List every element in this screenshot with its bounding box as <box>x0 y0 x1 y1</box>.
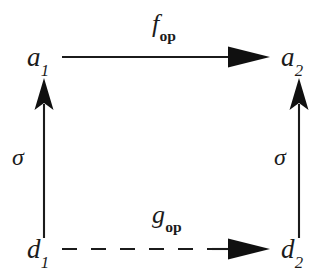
arrow-f-op-subscript: op <box>159 27 175 44</box>
arrow-f-op <box>62 47 270 68</box>
node-a1-subscript: 1 <box>41 61 49 80</box>
node-label-d2: d2 <box>281 236 303 268</box>
arrow-f-op-head <box>228 47 270 68</box>
arrow-label-f-op: fop <box>152 11 176 41</box>
arrow-label-sigma-left: σ <box>12 145 24 169</box>
arrow-g-op-head <box>228 239 270 260</box>
arrow-sigma-right <box>290 78 309 238</box>
node-d1-base: d <box>27 234 41 264</box>
arrow-label-sigma-right: σ <box>274 145 286 169</box>
node-label-a2: a2 <box>281 44 303 76</box>
node-d1-subscript: 1 <box>41 253 49 272</box>
arrow-label-g-op: gop <box>152 202 181 232</box>
node-label-d1: d1 <box>27 236 49 268</box>
node-d2-base: d <box>281 234 295 264</box>
arrow-sigma-left <box>35 78 54 238</box>
node-a2-base: a <box>281 42 295 72</box>
arrow-g-op <box>62 239 270 260</box>
node-a2-subscript: 2 <box>295 61 303 80</box>
node-a1-base: a <box>27 42 41 72</box>
arrow-g-op-subscript: op <box>165 218 181 235</box>
node-label-a1: a1 <box>27 44 49 76</box>
commutative-diagram: a1 a2 d1 d2 fop gop σ σ <box>0 0 329 278</box>
node-d2-subscript: 2 <box>295 253 303 272</box>
arrow-g-op-base: g <box>152 200 165 229</box>
